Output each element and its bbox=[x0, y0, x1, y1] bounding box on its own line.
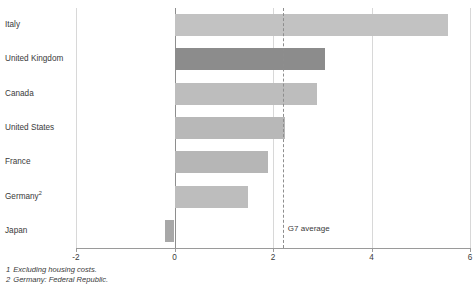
chart-title bbox=[4, 0, 324, 3]
footnote-1: 1Excluding housing costs. bbox=[6, 265, 446, 275]
x-tick-neg2 bbox=[76, 248, 77, 252]
bar-italy bbox=[175, 14, 448, 36]
category-label-japan: Japan bbox=[5, 226, 27, 236]
bar-canada bbox=[175, 83, 318, 105]
x-tick-label-neg2: -2 bbox=[72, 253, 79, 262]
footnote-number-1: 1 bbox=[6, 265, 10, 274]
footnote-2: 2Germany: Federal Republic. bbox=[6, 275, 446, 284]
g7-average-label: G7 average bbox=[288, 224, 330, 233]
x-tick-label-4: 4 bbox=[369, 253, 374, 262]
bar-united-kingdom bbox=[175, 48, 325, 70]
bar-japan bbox=[165, 220, 175, 242]
x-tick-label-0: 0 bbox=[172, 253, 177, 262]
gridline-neg2 bbox=[76, 8, 77, 248]
x-tick-label-2: 2 bbox=[271, 253, 276, 262]
x-tick-4 bbox=[372, 248, 373, 252]
footnotes: 1Excluding housing costs.2Germany: Feder… bbox=[6, 265, 446, 284]
x-tick-label-6: 6 bbox=[468, 253, 473, 262]
x-tick-0 bbox=[175, 248, 176, 252]
germany-footnote-marker: 2 bbox=[39, 190, 42, 196]
category-label-canada: Canada bbox=[5, 89, 34, 99]
x-tick-6 bbox=[470, 248, 471, 252]
x-tick-2 bbox=[273, 248, 274, 252]
category-label-italy: Italy bbox=[5, 20, 20, 30]
category-label-germany: Germany2 bbox=[5, 192, 42, 202]
footnote-number-2: 2 bbox=[6, 275, 10, 284]
footnote-text-1: Excluding housing costs. bbox=[13, 265, 97, 274]
plot-area: G7 average bbox=[76, 8, 470, 248]
gridline-4 bbox=[372, 8, 373, 248]
category-label-france: France bbox=[5, 157, 30, 167]
footnote-text-2: Germany: Federal Republic. bbox=[13, 275, 108, 284]
bar-france bbox=[175, 151, 269, 173]
category-label-united-states: United States bbox=[5, 123, 54, 133]
bar-united-states bbox=[175, 117, 286, 139]
g7-average-line bbox=[283, 8, 284, 248]
category-label-united-kingdom: United Kingdom bbox=[5, 54, 63, 64]
gridline-6 bbox=[470, 8, 471, 248]
bar-germany bbox=[175, 186, 249, 208]
